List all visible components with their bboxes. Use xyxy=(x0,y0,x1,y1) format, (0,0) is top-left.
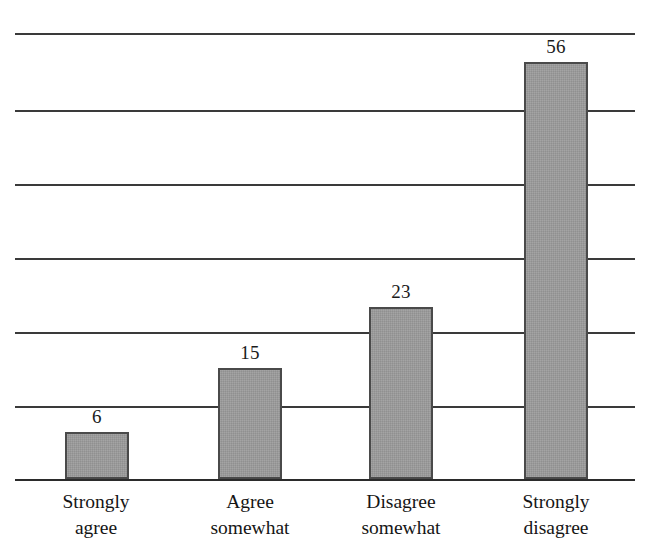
bar-strongly-disagree[interactable] xyxy=(524,62,588,479)
bar-chart: 6 15 23 56 Strongly agree Agree somewhat… xyxy=(0,0,650,557)
category-label-line-1: Agree xyxy=(175,489,325,515)
category-label-line-2: agree xyxy=(21,515,171,541)
bar-strongly-agree[interactable] xyxy=(65,432,129,479)
bar-agree-somewhat[interactable] xyxy=(218,368,282,479)
category-label-line-1: Strongly xyxy=(21,489,171,515)
category-label-strongly-disagree: Strongly disagree xyxy=(481,489,631,542)
category-label-disagree-somewhat: Disagree somewhat xyxy=(326,489,476,542)
category-label-agree-somewhat: Agree somewhat xyxy=(175,489,325,542)
category-label-line-1: Strongly xyxy=(481,489,631,515)
category-label-line-2: somewhat xyxy=(175,515,325,541)
category-label-line-2: somewhat xyxy=(326,515,476,541)
value-label-disagree-somewhat: 23 xyxy=(361,282,441,301)
category-label-strongly-agree: Strongly agree xyxy=(21,489,171,542)
x-axis-line xyxy=(15,479,635,481)
value-label-strongly-disagree: 56 xyxy=(516,37,596,56)
value-label-agree-somewhat: 15 xyxy=(210,343,290,362)
category-label-line-1: Disagree xyxy=(326,489,476,515)
category-label-line-2: disagree xyxy=(481,515,631,541)
bar-disagree-somewhat[interactable] xyxy=(369,307,433,479)
value-label-strongly-agree: 6 xyxy=(57,407,137,426)
plot-area: 6 15 23 56 Strongly agree Agree somewhat… xyxy=(0,0,650,557)
gridline-60 xyxy=(15,33,635,35)
